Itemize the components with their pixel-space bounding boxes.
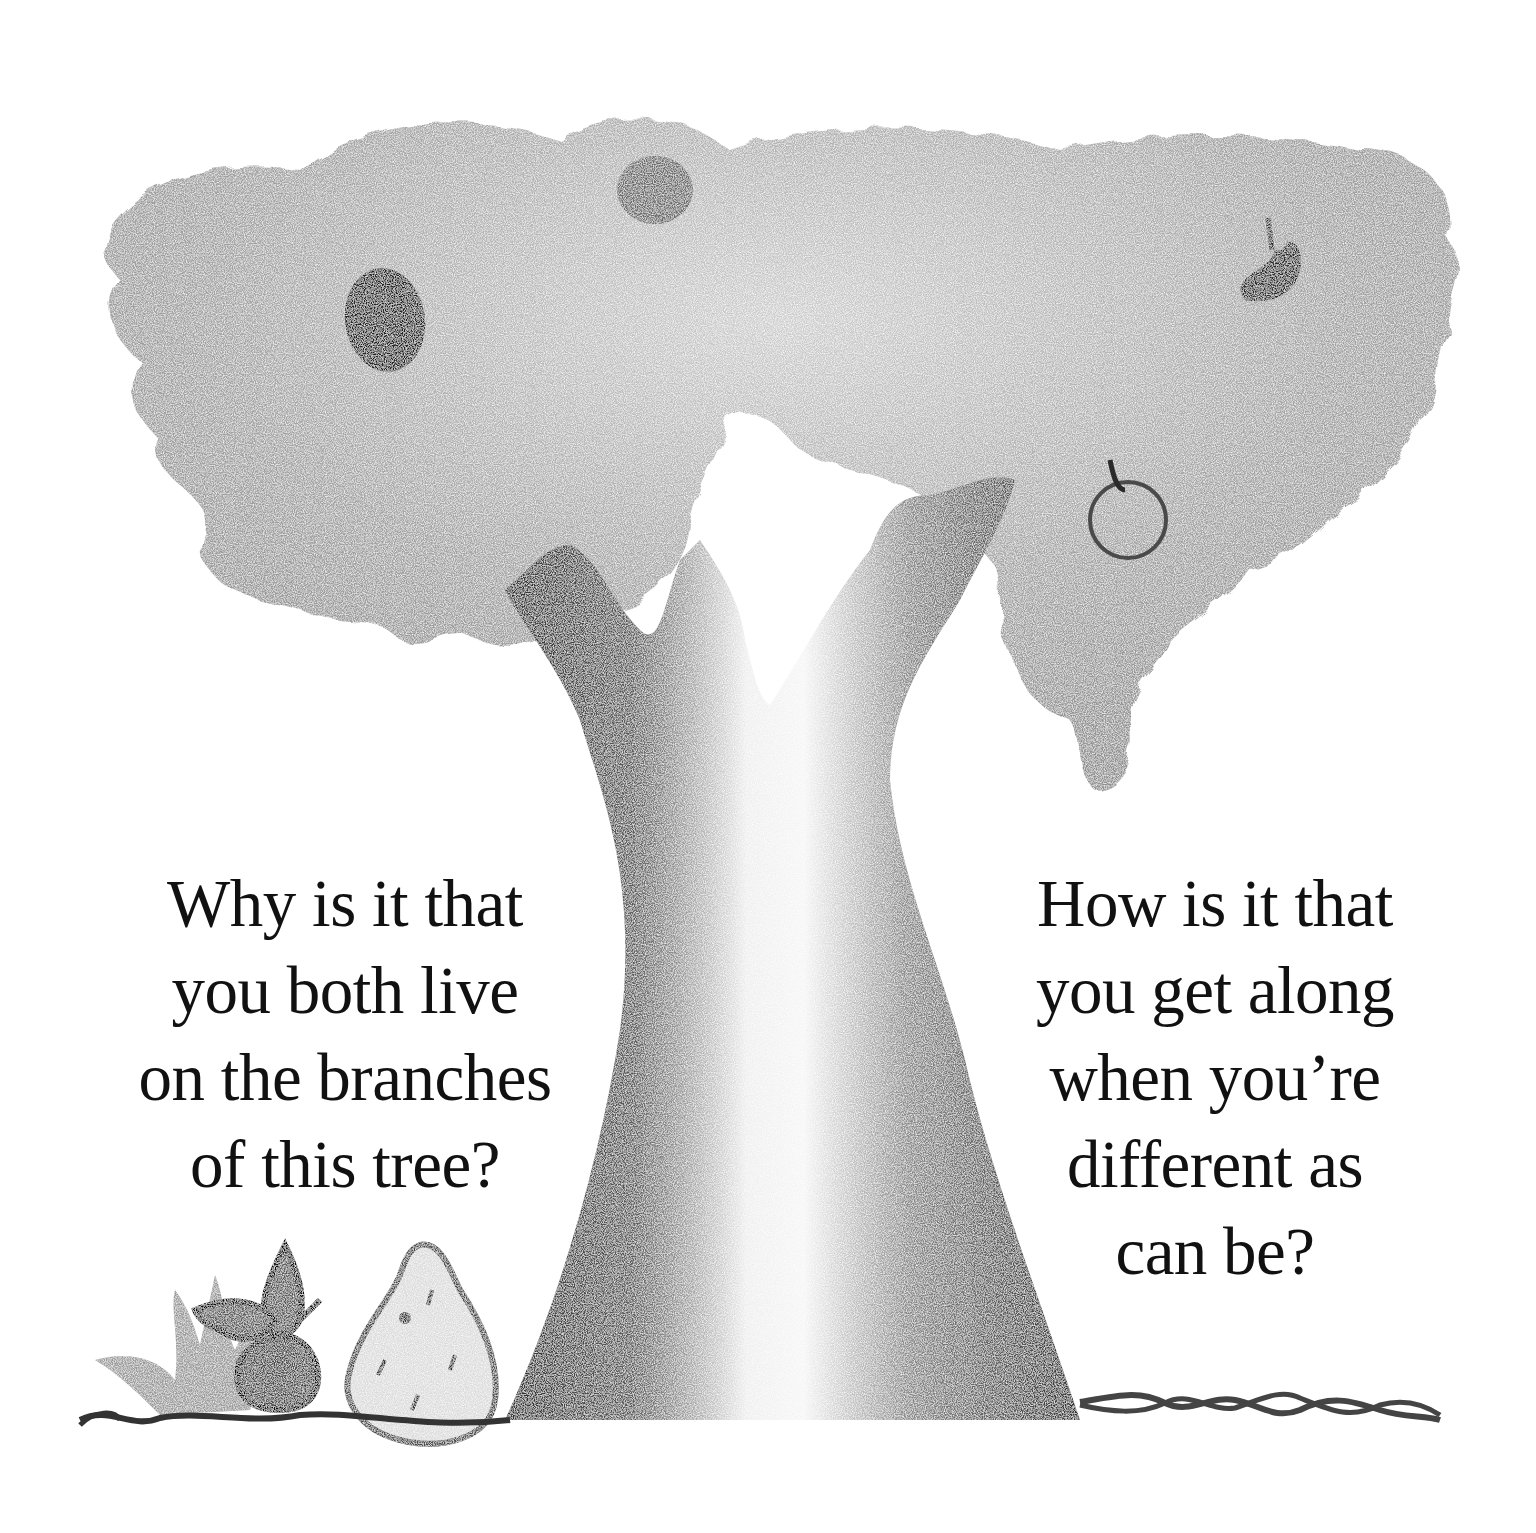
verse-line: on the branches [110, 1034, 580, 1121]
verse-line: different as [1005, 1121, 1425, 1208]
fruit-top-center [617, 156, 693, 224]
verse-line: Why is it that [110, 860, 580, 947]
verse-line: when you’re [1005, 1034, 1425, 1121]
book-page: Why is it that you both live on the bran… [0, 0, 1536, 1533]
verse-line: can be? [1005, 1208, 1425, 1295]
verse-left: Why is it that you both live on the bran… [110, 860, 580, 1208]
verse-right: How is it that you get along when you’re… [1005, 860, 1425, 1295]
twisted-ground-line-right [1080, 1394, 1440, 1420]
verse-line: How is it that [1005, 860, 1425, 947]
verse-line: of this tree? [110, 1121, 580, 1208]
verse-line: you get along [1005, 947, 1425, 1034]
pear-shaped-seed [347, 1244, 495, 1443]
tree-illustration [0, 0, 1536, 1533]
tree-trunk [505, 477, 1080, 1420]
verse-line: you both live [110, 947, 580, 1034]
